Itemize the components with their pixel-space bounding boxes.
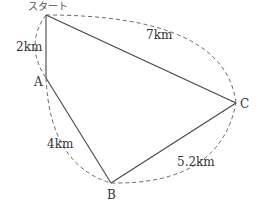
label-c: C: [240, 97, 249, 111]
label-b: B: [107, 188, 116, 202]
distance-start-c: 7km: [146, 28, 173, 42]
distance-b-c: 5.2km: [177, 155, 215, 169]
distance-start-a: 2km: [16, 40, 43, 54]
route-diagram: スタート A B C 2km 4km 5.2km 7km: [0, 0, 266, 209]
distance-a-b: 4km: [47, 137, 74, 151]
edge-b-c: [111, 103, 236, 183]
edge-start-c: [46, 15, 236, 103]
edge-a-b: [46, 78, 111, 183]
label-a: A: [33, 75, 43, 89]
label-start: スタート: [28, 1, 68, 12]
